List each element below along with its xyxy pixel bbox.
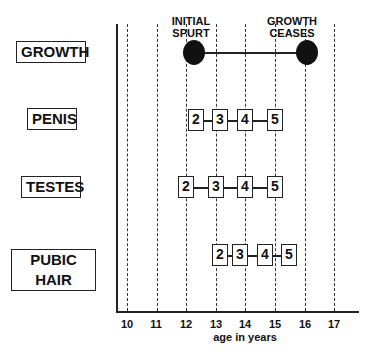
testes-stage-box: 4: [237, 176, 253, 198]
penis-stage-box: 5: [267, 109, 283, 131]
row-label-penis: PENIS: [27, 108, 77, 130]
y-axis: [116, 24, 118, 313]
pubic-hair-stage-box: 3: [232, 244, 248, 266]
gridline-16: [305, 24, 306, 311]
x-tick-label: 17: [322, 318, 346, 330]
gridline-17: [334, 24, 335, 311]
testes-stage-box: 2: [178, 176, 194, 198]
penis-connector-line: [196, 120, 275, 122]
gridline-10: [127, 24, 128, 311]
gridline-13: [216, 24, 217, 311]
pubic-hair-stage-box: 5: [281, 244, 297, 266]
testes-stage-box: 3: [208, 176, 224, 198]
growth-end-marker: [296, 40, 318, 65]
x-tick-label: 11: [144, 318, 168, 330]
gridline-14: [245, 24, 246, 311]
testes-connector-line: [186, 187, 275, 189]
growth-start-marker: [183, 40, 205, 65]
penis-stage-box: 2: [188, 109, 204, 131]
annotation-line: SPURT: [168, 27, 214, 39]
x-tick-label: 13: [204, 318, 228, 330]
annotation-line: GROWTH: [264, 15, 320, 27]
gridline-15: [275, 24, 276, 311]
annotation-initial-spurt: INITIAL SPURT: [168, 15, 214, 39]
x-axis: [116, 311, 359, 313]
annotation-line: CEASES: [264, 27, 320, 39]
annotation-growth-ceases: GROWTH CEASES: [264, 15, 320, 39]
penis-stage-box: 3: [212, 109, 228, 131]
x-tick-label: 16: [293, 318, 317, 330]
x-tick-label: 14: [233, 318, 257, 330]
pubic-hair-stage-box: 2: [212, 244, 228, 266]
x-tick-label: 10: [115, 318, 139, 330]
x-tick-label: 15: [263, 318, 287, 330]
pubic-hair-connector-line: [220, 255, 289, 257]
growth-interval-line: [194, 52, 307, 54]
gridline-12: [186, 24, 187, 311]
row-label-growth: GROWTH: [16, 41, 86, 63]
row-label-pubic-hair: PUBIC HAIR: [11, 249, 96, 291]
penis-stage-box: 4: [237, 109, 253, 131]
x-axis-label: age in years: [195, 331, 295, 343]
annotation-line: INITIAL: [168, 15, 214, 27]
testes-stage-box: 5: [267, 176, 283, 198]
x-tick-label: 12: [174, 318, 198, 330]
gridline-11: [157, 24, 158, 311]
pubic-hair-stage-box: 4: [257, 244, 273, 266]
row-label-testes: TESTES: [21, 176, 81, 198]
